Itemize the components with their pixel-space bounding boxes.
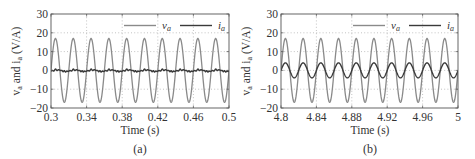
panel-b-chart: −20−100102030 4.84.844.884.924.965 va ia… xyxy=(240,8,461,156)
panel-b-axes-frame xyxy=(281,14,458,108)
panel-b-y-ticks: −20−100102030 xyxy=(260,8,458,114)
x-tick-label: 0.3 xyxy=(44,111,59,123)
panel-a-legend: va ia xyxy=(124,19,225,33)
figure: −20−100102030 0.30.340.380.420.460.5 va … xyxy=(0,0,475,159)
y-tick-label: −10 xyxy=(30,83,48,95)
panel-a-y-ticks: −20−100102030 xyxy=(30,8,229,114)
panel-b-x-axis-label: Time (s) xyxy=(351,124,390,137)
panel-b-traces xyxy=(281,38,458,102)
legend-current-label: ia xyxy=(447,19,454,33)
x-tick-label: 0.46 xyxy=(183,111,203,123)
x-tick-label: 4.96 xyxy=(413,111,433,123)
y-tick-label: 10 xyxy=(37,46,49,58)
x-tick-label: 0.5 xyxy=(222,111,237,123)
y-tick-label: 20 xyxy=(37,27,49,39)
x-tick-label: 4.92 xyxy=(377,111,397,123)
x-tick-label: 0.38 xyxy=(112,111,132,123)
panel-b-caption: (b) xyxy=(363,142,377,156)
figure-canvas: −20−100102030 0.30.340.380.420.460.5 va … xyxy=(0,0,475,159)
x-tick-label: 4.84 xyxy=(306,111,326,123)
panel-a-axes-frame xyxy=(51,14,229,108)
panel-b-y-axis-label: va and ia (V/A) xyxy=(240,26,254,95)
legend-current-label: ia xyxy=(218,19,225,33)
panel-a-x-axis-label: Time (s) xyxy=(121,124,160,137)
y-tick-label: 30 xyxy=(37,8,49,20)
y-tick-label: 30 xyxy=(267,8,279,20)
panel-b-grid xyxy=(281,14,458,108)
panel-a-chart: −20−100102030 0.30.340.380.420.460.5 va … xyxy=(10,8,236,156)
y-tick-label: 0 xyxy=(272,64,278,76)
legend-voltage-label: va xyxy=(391,19,400,33)
x-tick-label: 4.8 xyxy=(274,111,289,123)
y-tick-label: 0 xyxy=(42,64,48,76)
panel-b-x-ticks: 4.84.844.884.924.965 xyxy=(274,14,461,123)
panel-a-traces xyxy=(51,38,229,102)
panel-b-legend: va ia xyxy=(353,19,454,33)
x-tick-label: 4.88 xyxy=(342,111,362,123)
x-tick-label: 5 xyxy=(455,111,461,123)
y-tick-label: −10 xyxy=(260,83,278,95)
panel-a-caption: (a) xyxy=(133,142,146,156)
panel-a-grid xyxy=(51,14,229,108)
y-tick-label: 20 xyxy=(267,27,279,39)
x-tick-label: 0.34 xyxy=(77,111,97,123)
y-tick-label: 10 xyxy=(267,46,279,58)
legend-voltage-label: va xyxy=(162,19,171,33)
panel-a-y-axis-label: va and ia (V/A) xyxy=(10,26,24,95)
x-tick-label: 0.42 xyxy=(148,111,168,123)
